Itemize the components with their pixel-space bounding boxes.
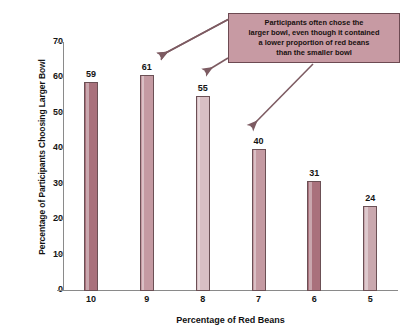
bar-group: 31: [286, 42, 342, 291]
x-tick-label-6: 6: [286, 294, 342, 304]
bar-9[interactable]: [140, 75, 154, 291]
y-axis-title: Percentage of Participants Choosing Larg…: [37, 37, 47, 277]
callout-box: Participants often chose the larger bowl…: [228, 13, 400, 63]
bar-value-label: 59: [69, 69, 113, 79]
callout-text: Participants often chose the larger bowl…: [244, 18, 385, 59]
x-tick-label-5: 5: [342, 294, 398, 304]
y-tick-0: 0: [28, 285, 63, 295]
x-tick-label-7: 7: [231, 294, 287, 304]
bar-group: 40: [231, 42, 287, 291]
bar-8[interactable]: [196, 96, 210, 291]
bar-value-label: 24: [348, 193, 392, 203]
bar-value-label: 55: [181, 83, 225, 93]
bar-5[interactable]: [363, 206, 377, 291]
bar-value-label: 31: [292, 168, 336, 178]
x-tick-label-9: 9: [119, 294, 175, 304]
x-tick-label-10: 10: [63, 294, 119, 304]
x-axis-title: Percentage of Red Beans: [63, 315, 398, 325]
bar-value-label: 40: [237, 136, 281, 146]
bar-group: 59: [63, 42, 119, 291]
bar-6[interactable]: [307, 181, 321, 291]
bar-group: 24: [342, 42, 398, 291]
bar-7[interactable]: [252, 149, 266, 291]
bar-group: 61: [119, 42, 175, 291]
bar-value-label: 61: [125, 62, 169, 72]
x-tick-label-8: 8: [175, 294, 231, 304]
bar-10[interactable]: [84, 82, 98, 291]
bar-group: 55: [175, 42, 231, 291]
bar-chart-figure: 010203040506070 Percentage of Participan…: [0, 0, 409, 336]
